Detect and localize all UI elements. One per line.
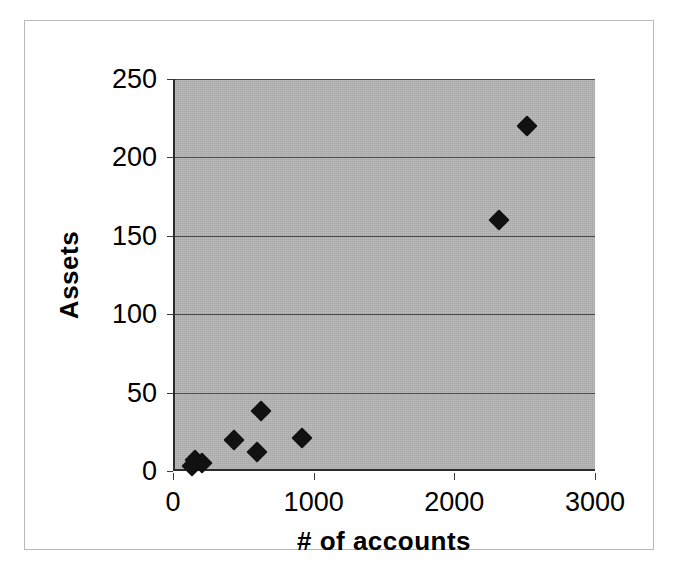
x-tick-mark-2000 <box>454 473 455 480</box>
data-point <box>223 429 244 450</box>
x-tick-mark-1000 <box>314 473 315 480</box>
y-tick-mark-0 <box>167 471 173 472</box>
data-point <box>246 442 267 463</box>
scatter-markers <box>175 79 595 469</box>
x-tick-mark-3000 <box>595 473 596 480</box>
data-point <box>291 427 312 448</box>
figure-frame: Assets # of accounts 050100150200250 010… <box>24 20 654 550</box>
data-point <box>250 401 271 422</box>
data-point <box>516 115 537 136</box>
chart-page: Assets # of accounts 050100150200250 010… <box>0 0 681 572</box>
data-point <box>488 210 509 231</box>
plot-area <box>173 79 595 471</box>
x-tick-mark-0 <box>173 473 174 480</box>
